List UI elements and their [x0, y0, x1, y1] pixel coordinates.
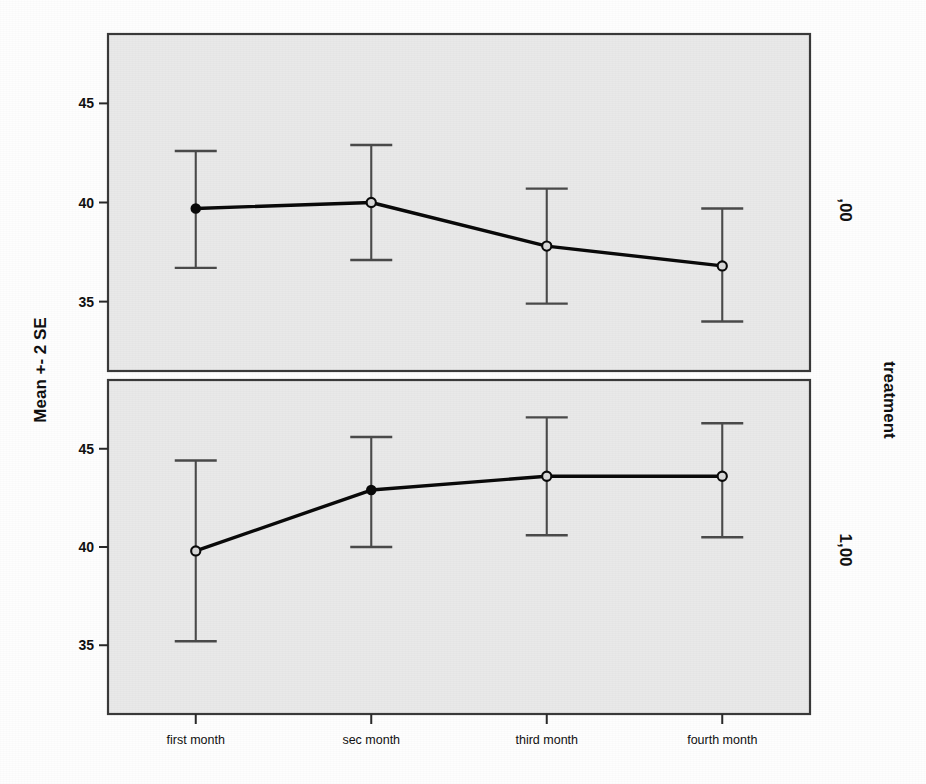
- y-tick-label: 35: [78, 637, 94, 653]
- data-point-marker: [367, 486, 375, 494]
- panel-axis-title: treatment: [880, 361, 899, 439]
- chart-page: Mean +- 2 SE treatment 454035 ,00 454035…: [0, 0, 926, 784]
- y-axis-title: Mean +- 2 SE: [31, 317, 50, 422]
- x-category-label: fourth month: [687, 733, 757, 747]
- panel-top-y-ticks: [99, 103, 108, 301]
- y-tick-label: 40: [78, 195, 94, 211]
- x-axis-category-labels: first monthsec monththird monthfourth mo…: [167, 733, 758, 747]
- x-category-label: first month: [167, 733, 225, 747]
- y-tick-label: 45: [78, 441, 94, 457]
- panel-bottom-y-ticks: [99, 449, 108, 645]
- x-category-label: third month: [515, 733, 578, 747]
- x-category-label: sec month: [342, 733, 400, 747]
- panel-top-y-ticklabels: 454035: [78, 95, 94, 309]
- y-tick-label: 40: [78, 539, 94, 555]
- data-point-marker: [192, 204, 200, 212]
- panel-bottom: 454035 1,00: [78, 380, 855, 714]
- error-bar-chart: Mean +- 2 SE treatment 454035 ,00 454035…: [0, 0, 926, 784]
- x-axis-ticks: [196, 714, 723, 724]
- panel-bottom-label: 1,00: [836, 533, 855, 566]
- panel-bottom-background: [108, 380, 810, 714]
- panel-top-label: ,00: [836, 198, 855, 222]
- y-tick-label: 45: [78, 95, 94, 111]
- panel-bottom-y-ticklabels: 454035: [78, 441, 94, 653]
- panel-top: 454035 ,00: [78, 34, 855, 371]
- y-tick-label: 35: [78, 294, 94, 310]
